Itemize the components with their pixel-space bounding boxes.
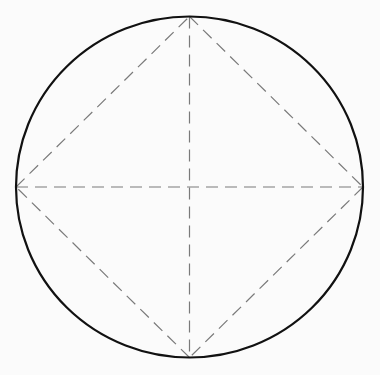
diagram-canvas	[0, 0, 380, 375]
